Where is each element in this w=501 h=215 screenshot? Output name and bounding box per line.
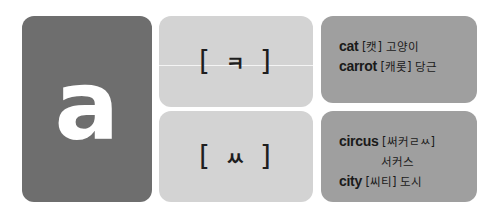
open-bracket: [ (199, 45, 212, 78)
sound-card-k: [ㅋ] (159, 16, 313, 107)
meaning: 서커스 (381, 155, 414, 169)
word: cat (339, 38, 358, 54)
word: circus (339, 133, 378, 149)
open-bracket: [ (199, 140, 212, 173)
sound-card-ss: [ㅆ] (159, 111, 313, 202)
pronunciation: [캐롯] (381, 60, 412, 74)
meaning: 도시 (400, 175, 422, 189)
sound-k: [ㅋ] (199, 45, 273, 78)
example-card-k: cat [캣] 고양이 carrot [캐롯] 당근 (321, 16, 477, 103)
example-card-ss: circus [써커ㄹㅆ] 서커스 city [씨티] 도시 (321, 111, 477, 202)
pronunciation: [씨티] (366, 175, 397, 189)
example-circus: circus [써커ㄹㅆ] (339, 132, 477, 152)
sound-ss: [ㅆ] (199, 140, 273, 173)
word: city (339, 173, 362, 189)
close-bracket: ] (260, 45, 273, 78)
word: carrot (339, 58, 377, 74)
example-city: city [씨티] 도시 (339, 172, 477, 192)
close-bracket: ] (260, 140, 273, 173)
letter-card: a (22, 16, 152, 202)
letter-a: a (55, 58, 120, 154)
pronunciation: [캣] (362, 40, 382, 54)
meaning: 고양이 (386, 40, 419, 54)
example-circus-meaning: 서커스 (339, 152, 477, 172)
jamo-ss: ㅆ (226, 147, 246, 171)
meaning: 당근 (415, 60, 437, 74)
pronunciation: [써커ㄹㅆ] (382, 135, 435, 149)
jamo-k: ㅋ (226, 52, 246, 76)
example-carrot: carrot [캐롯] 당근 (339, 57, 477, 77)
example-cat: cat [캣] 고양이 (339, 37, 477, 57)
